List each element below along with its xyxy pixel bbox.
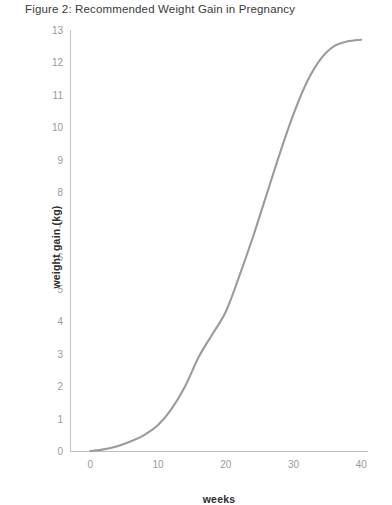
y-tick-label: 10 (52, 122, 63, 133)
plot-area: 012345678910111213 010203040 weeks (70, 30, 368, 452)
weight-gain-curve (90, 40, 361, 451)
page-title: Figure 2: Recommended Weight Gain in Pre… (25, 3, 295, 15)
y-tick-label: 2 (57, 381, 63, 392)
y-tick-label: 1 (57, 413, 63, 424)
x-tick-label: 30 (288, 459, 299, 470)
x-axis-title: weeks (70, 493, 368, 505)
y-tick-label: 11 (53, 89, 63, 100)
y-tick-label: 3 (57, 348, 63, 359)
y-tick-label: 9 (57, 154, 63, 165)
x-tick-label: 20 (220, 459, 231, 470)
y-tick-label: 4 (57, 316, 63, 327)
x-tick-label: 40 (356, 459, 367, 470)
y-tick-label: 0 (57, 446, 63, 457)
x-tick-label: 0 (88, 459, 94, 470)
y-tick-label: 12 (52, 57, 63, 68)
y-tick-label: 8 (57, 186, 63, 197)
line-series-svg (70, 30, 368, 452)
x-tick-label: 10 (152, 459, 163, 470)
y-tick-label: 13 (52, 25, 63, 36)
y-axis-title: weight gain (kg) (50, 205, 62, 288)
